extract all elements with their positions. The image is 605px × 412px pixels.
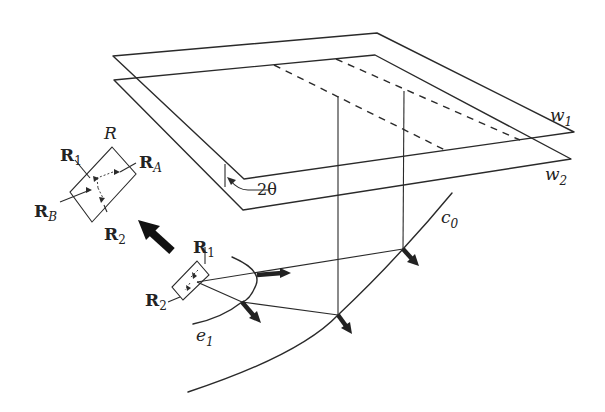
e1-label: e1	[196, 325, 214, 349]
curve-c0	[188, 193, 452, 392]
rb-label: RB	[34, 201, 57, 224]
big-arrow	[138, 220, 172, 251]
normal-arrows	[242, 249, 419, 334]
dashed-lines	[274, 59, 520, 150]
plane-w2	[114, 55, 571, 210]
c0-label: c0	[441, 207, 459, 231]
small-r2-label: R2	[145, 290, 167, 313]
plane-w1	[113, 33, 574, 179]
R-label: R	[103, 123, 117, 143]
angle-label: 2θ	[257, 180, 277, 199]
small-r1-label: R1	[193, 237, 215, 260]
w2-label: w2	[545, 164, 567, 188]
large-r2-label: R2	[104, 224, 126, 247]
ra-label: RA	[139, 152, 162, 175]
large-r1-label: R1	[60, 145, 82, 168]
diagram-figure: 2θ w1 w2 c0 e1 R1 R2	[0, 0, 605, 412]
